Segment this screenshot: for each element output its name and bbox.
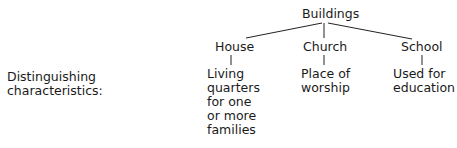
root-node-buildings: Buildings bbox=[302, 7, 359, 21]
child-node-church: Church bbox=[303, 40, 347, 54]
school-description: Used for education bbox=[393, 67, 455, 95]
connector-buildings-house bbox=[246, 23, 322, 38]
house-description: Living quarters for one or more families bbox=[207, 67, 260, 137]
child-node-house: House bbox=[215, 40, 254, 54]
child-node-school: School bbox=[401, 40, 443, 54]
row-label-distinguishing-characteristics: Distinguishing characteristics: bbox=[7, 70, 103, 98]
church-description: Place of worship bbox=[301, 67, 350, 95]
connector-buildings-school bbox=[328, 23, 412, 39]
